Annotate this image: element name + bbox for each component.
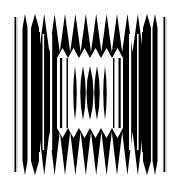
window-frame-line	[119, 58, 121, 128]
vertical-spike	[153, 14, 158, 175]
outer-line	[164, 17, 166, 172]
inner-white-stripe	[137, 34, 139, 150]
outer-line	[165, 17, 166, 172]
op-art-pattern	[0, 0, 180, 185]
block-left-fill	[31, 32, 40, 152]
inner-white-stripe	[129, 34, 131, 150]
vertical-spike	[23, 14, 28, 175]
outer-line	[15, 17, 17, 172]
inner-white-stripe	[50, 34, 52, 150]
window-frame-line	[113, 58, 114, 128]
window-frame-line	[60, 58, 62, 128]
vertical-spike	[143, 14, 151, 175]
block-right-fill	[142, 32, 144, 152]
outer-line	[16, 17, 17, 172]
inner-white-stripe	[43, 34, 45, 150]
window-frame-line	[67, 58, 68, 128]
op-art-svg	[0, 0, 180, 185]
